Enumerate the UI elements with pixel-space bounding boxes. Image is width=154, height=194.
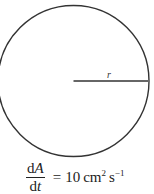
fraction-denominator: dt — [30, 178, 42, 194]
radius-label: r — [107, 69, 111, 80]
numerator-d: d — [27, 160, 35, 176]
denominator-d: d — [30, 178, 38, 194]
equals-sign: = — [53, 169, 61, 186]
denominator-variable: t — [37, 178, 41, 194]
unit-s-exponent: −1 — [115, 168, 125, 178]
unit-s: s−1 — [109, 169, 124, 186]
fraction-numerator: dA — [26, 161, 45, 178]
rate-of-change-formula: dA dt = 10 cm2 s−1 — [26, 160, 124, 194]
numerator-variable: A — [35, 160, 44, 176]
derivative-fraction: dA dt — [26, 161, 45, 194]
unit-cm: cm2 — [83, 169, 106, 186]
unit-cm-text: cm — [83, 169, 101, 185]
unit-cm-exponent: 2 — [101, 168, 106, 178]
rate-value: 10 — [65, 169, 80, 186]
